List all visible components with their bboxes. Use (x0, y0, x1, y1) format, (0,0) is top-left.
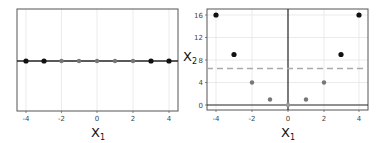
right-xtick: 2 (322, 115, 326, 123)
right-ylabel-sub: 2 (192, 57, 197, 66)
right-xtick: 0 (286, 115, 290, 123)
right-xtick: 4 (357, 115, 362, 123)
right-ytick: 4 (199, 79, 204, 87)
left-points (23, 58, 171, 63)
right-plot: -4 -2 0 2 4 0 4 8 12 16 X 2 X 1 (183, 9, 368, 142)
right-xtick: -4 (213, 115, 221, 123)
right-xtick: -2 (249, 115, 256, 123)
left-plot: -4 -2 0 2 4 X 1 (17, 9, 178, 142)
right-ytick: 16 (194, 12, 203, 20)
left-xtick: 0 (95, 115, 99, 123)
left-xlabel: X (91, 125, 100, 140)
chart-canvas: -4 -2 0 2 4 X 1 (0, 0, 382, 143)
right-ytick: 8 (199, 57, 203, 65)
left-xtick: 2 (131, 115, 135, 123)
left-xtick: 4 (167, 115, 172, 123)
left-xtick: -2 (58, 115, 65, 123)
right-xlabel: X (281, 125, 290, 140)
right-ylabel: X (183, 49, 192, 64)
left-xlabel-sub: 1 (100, 133, 105, 142)
left-xtick: -4 (23, 115, 31, 123)
right-ytick: 12 (194, 34, 203, 42)
right-ytick: 0 (199, 102, 203, 110)
right-xlabel-sub: 1 (290, 133, 295, 142)
